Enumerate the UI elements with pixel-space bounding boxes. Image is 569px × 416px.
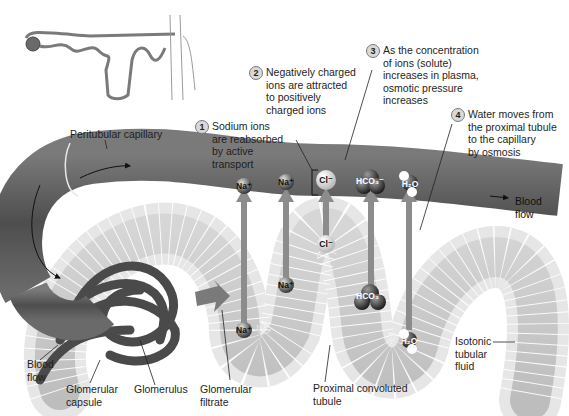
step-2-badge: 2	[249, 66, 263, 80]
step-1-callout: 1Sodium ions are reabsorbed by active tr…	[195, 120, 283, 170]
step-2-text: Negatively charged ions are attracted to…	[266, 66, 356, 116]
capillary-ion-bicarbonate: HCO₃⁻	[354, 176, 386, 186]
nephron-thumbnail	[26, 15, 195, 100]
proximal-tubule	[55, 228, 538, 400]
step-3-callout: 3As the concentration of ions (solute) i…	[366, 44, 479, 107]
step-1-text: Sodium ions are reabsorbed by active tra…	[212, 120, 283, 170]
capillary-water-molecule: H₂O	[396, 179, 424, 189]
capillary-ion-sodium-2: Na⁺	[274, 177, 298, 187]
label-peritubular-capillary: Peritubular capillary	[70, 128, 162, 141]
label-proximal-convoluted-tubule: Proximal convoluted tubule	[313, 382, 408, 407]
step-3-badge: 3	[366, 44, 380, 58]
nephron-reabsorption-diagram: Na⁺ Na⁺ Cl⁻ HCO₃⁻ H₂O Na⁺ Na⁺ Cl⁻ HCO₃⁻ …	[0, 0, 569, 416]
step-4-text: Water moves from the proximal tubule to …	[468, 108, 557, 158]
step-4-callout: 4Water moves from the proximal tubule to…	[451, 108, 557, 158]
step-2-callout: 2Negatively charged ions are attracted t…	[249, 66, 356, 116]
label-blood-flow-in: Blood flow	[27, 358, 54, 383]
label-glomerulus: Glomerulus	[134, 383, 188, 396]
step-1-badge: 1	[195, 120, 209, 134]
tubule-ion-chloride: Cl⁻	[314, 239, 338, 249]
step-3-text: As the concentration of ions (solute) in…	[383, 44, 479, 107]
label-glomerular-filtrate: Glomerular filtrate	[200, 383, 252, 408]
capillary-ion-sodium-1: Na⁺	[232, 181, 256, 191]
tubule-water-molecule: H₂O	[395, 336, 423, 346]
label-blood-flow-out: Blood flow	[515, 195, 542, 220]
capillary-ion-chloride: Cl⁻	[314, 175, 338, 185]
label-isotonic-tubular-fluid: Isotonic tubular fluid	[455, 335, 491, 373]
tubule-ion-bicarbonate: HCO₃⁻	[354, 291, 386, 301]
label-glomerular-capsule: Glomerular capsule	[66, 383, 118, 408]
tubule-ion-sodium-2: Na⁺	[274, 280, 298, 290]
step-4-badge: 4	[451, 108, 465, 122]
tubule-ion-sodium-1: Na⁺	[232, 325, 256, 335]
